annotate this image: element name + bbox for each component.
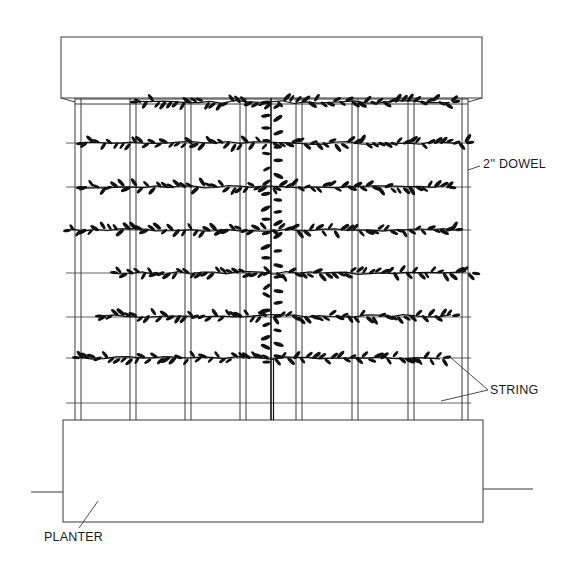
planter-label: PLANTER [44, 530, 103, 544]
leaf [273, 129, 284, 136]
leaf [105, 138, 113, 145]
string-leader-upper [450, 357, 488, 390]
leaf [230, 143, 238, 153]
trellis-structure [31, 37, 533, 522]
beam-bevel-left [61, 98, 75, 102]
leaf [273, 210, 282, 215]
leaf [273, 328, 282, 333]
leaf [290, 177, 299, 187]
leaf [136, 315, 144, 322]
leaf [260, 334, 271, 341]
leaf [285, 310, 293, 318]
leaf [273, 159, 283, 163]
leaf [273, 263, 284, 269]
leaf [358, 230, 365, 238]
dowel-leader [468, 166, 480, 170]
leaf [130, 100, 138, 103]
leaf [401, 229, 408, 238]
leaf [361, 350, 369, 358]
beam-bevel-right [468, 98, 482, 102]
leaf [415, 309, 423, 317]
leaf [116, 178, 125, 188]
leaf [429, 358, 435, 366]
leaf [472, 271, 481, 275]
leaf [273, 172, 285, 181]
leaf [346, 314, 354, 324]
leaf [63, 228, 71, 232]
leaf [262, 178, 272, 186]
leaf [106, 223, 112, 231]
planter-box [63, 420, 483, 522]
leaf [261, 217, 270, 221]
leaf [312, 267, 323, 275]
leaf [99, 221, 106, 230]
leaf [259, 221, 267, 230]
leaf [273, 341, 285, 349]
leaf [216, 138, 224, 145]
leaf [273, 198, 282, 202]
leaf [262, 360, 270, 363]
leaf [260, 204, 272, 213]
leaf [160, 228, 168, 235]
leaf [273, 300, 283, 305]
leaf [150, 307, 157, 316]
leaf [350, 266, 358, 273]
leaf [261, 256, 270, 260]
leaf [390, 187, 397, 194]
leaf [307, 100, 317, 109]
leaf [414, 225, 422, 232]
leaf [142, 314, 151, 324]
leaf [130, 177, 138, 187]
leaf [396, 187, 402, 195]
leaf [261, 113, 271, 118]
leaf [198, 177, 207, 187]
leaf [398, 356, 407, 364]
leaf [254, 315, 262, 324]
leaf [260, 343, 271, 351]
dowel-label: 2'' DOWEL [483, 157, 546, 171]
leaf [297, 185, 306, 192]
leaf [260, 243, 271, 251]
leaf [110, 271, 118, 275]
leaf [438, 100, 446, 106]
leaf [236, 143, 243, 151]
leaf [144, 358, 152, 365]
leaf [334, 143, 343, 153]
leaf [148, 186, 157, 195]
espalier-vine [63, 92, 481, 420]
string-leader-lower [441, 390, 488, 401]
leaf [182, 358, 189, 366]
leaf [273, 249, 282, 253]
leaf [217, 179, 225, 187]
leaf [262, 283, 271, 291]
leaf [261, 126, 270, 130]
leaf [442, 272, 450, 282]
leaf [189, 350, 196, 358]
leaf [72, 356, 80, 360]
leaf [441, 358, 449, 367]
leaf [333, 229, 341, 239]
leaf [339, 100, 347, 107]
string-label: STRING [490, 383, 538, 397]
leaf [261, 143, 268, 150]
leaf [392, 350, 399, 358]
leaf [262, 291, 272, 298]
leaf [142, 180, 150, 187]
leaf [262, 321, 271, 327]
leaf [321, 230, 328, 237]
leaf [309, 185, 317, 192]
leaf [262, 151, 271, 155]
leaf [261, 191, 271, 196]
trellis-diagram [0, 0, 582, 577]
top-beam [61, 37, 482, 98]
leaf [273, 289, 283, 294]
leaf [272, 114, 283, 123]
leaf [158, 100, 167, 110]
leaf [263, 166, 272, 173]
leaf [322, 141, 330, 148]
